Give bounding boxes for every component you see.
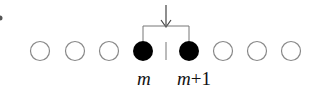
empty-circle (282, 42, 301, 61)
empty-circle (214, 42, 233, 61)
label-op: +1 (191, 68, 211, 89)
label-m: m (137, 68, 151, 89)
filled-circle (133, 41, 153, 61)
empty-circle (248, 42, 267, 61)
filled-circle (179, 41, 199, 61)
bracket-line (143, 26, 189, 41)
empty-circle (31, 42, 50, 61)
diagram: m m+1 (0, 0, 314, 94)
label-m-plus-1: m+1 (177, 68, 211, 89)
empty-circle (100, 42, 119, 61)
label-var: m (177, 68, 191, 89)
edge-mark (0, 16, 3, 21)
empty-circle (66, 42, 85, 61)
